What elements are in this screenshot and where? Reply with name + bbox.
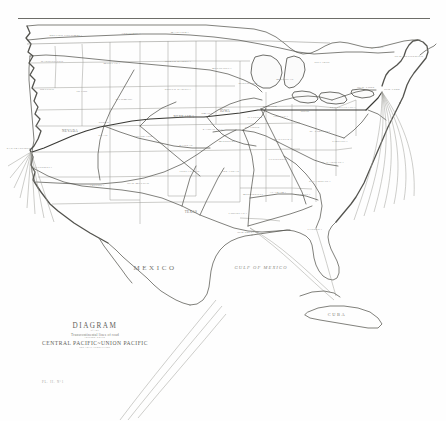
region-label: IOWA <box>220 109 230 113</box>
region-label: ALABAMA <box>269 190 287 194</box>
region-label: ARKANSAS <box>221 169 239 173</box>
region-label: VIRGINIA <box>332 139 349 143</box>
region-label: MICHIGAN <box>276 77 294 81</box>
title-block: DIAGRAM of the Transcontinental lines of… <box>36 322 154 350</box>
region-label: TENNESSEE <box>268 157 287 161</box>
city-label: CHICAGO <box>263 105 277 108</box>
region-label: UTAH <box>98 133 107 137</box>
label-cuba: CUBA <box>328 312 347 317</box>
city-label: SAN FRANCISCO <box>7 147 31 150</box>
region-label: KANSAS <box>179 143 193 147</box>
region-label: NEVADA <box>62 129 78 133</box>
region-label: WISCONSIN <box>238 81 258 85</box>
region-label: WYOMING <box>115 97 132 101</box>
region-label: COLORADO <box>134 134 153 138</box>
region-label: LOUISIANA <box>229 211 248 215</box>
city-label: OMAHA <box>201 112 212 115</box>
city-label: NEW ORLEANS <box>237 231 259 234</box>
label-gulf-of-mexico: GULF OF MEXICO <box>234 265 287 270</box>
city-label: ST. LOUIS <box>245 126 260 129</box>
region-label: MINNESOTA <box>212 66 233 70</box>
region-label: TEXAS <box>185 210 198 214</box>
title-footnote: and their connections <box>36 347 154 350</box>
region-label: MISSOURI <box>219 139 236 143</box>
region-label: KENTUCKY <box>274 137 293 141</box>
region-label: ONTARIO <box>314 60 329 64</box>
map-plate: MEXICO GULF OF MEXICO CUBA BRITISH COLUM… <box>0 0 446 421</box>
region-label: NEW YORK <box>357 85 376 89</box>
region-label: NEBRASKA <box>173 115 194 119</box>
region-label: OREGON <box>40 87 55 91</box>
region-label: MANITOBA <box>171 30 190 34</box>
region-label: OHIO <box>301 109 310 113</box>
region-label: PENNSYLVANIA <box>330 105 356 109</box>
region-label: NEW BRUNSWICK <box>394 54 424 58</box>
region-label: BRITISH COLUMBIA <box>50 33 84 37</box>
region-label: INDIANA <box>274 114 289 118</box>
region-label: WASHINGTON <box>41 59 64 63</box>
region-label: N. CAROLINA <box>322 160 345 164</box>
region-label: S. CAROLINA <box>309 179 331 183</box>
steamship-routes <box>8 92 414 420</box>
city-label: NEW YORK <box>384 88 400 91</box>
region-label: IDAHO <box>76 89 87 93</box>
region-label: QUEBEC <box>370 45 384 49</box>
region-label: CALIFORNIA <box>31 165 53 169</box>
region-label: MISSISSIPPI <box>243 192 263 196</box>
cuba-island <box>300 291 382 328</box>
region-label: FLORIDA <box>308 227 324 231</box>
city-label: OGDEN <box>99 121 110 124</box>
region-label: SOUTH DAKOTA <box>165 87 192 91</box>
region-label: GEORGIA <box>295 192 311 196</box>
region-label: W. VIRGINIA <box>310 129 331 133</box>
plate-mark: PL. II. N°1 <box>42 380 64 384</box>
region-label: NEW MEXICO <box>127 181 149 185</box>
region-label: NORTH DAKOTA <box>165 59 192 63</box>
map-labels: MEXICO GULF OF MEXICO CUBA BRITISH COLUM… <box>7 30 424 317</box>
map-canvas: MEXICO GULF OF MEXICO CUBA BRITISH COLUM… <box>0 0 446 421</box>
label-mexico: MEXICO <box>133 264 176 272</box>
region-label: MONTANA <box>104 61 122 65</box>
city-label: KANSAS CITY <box>203 128 223 131</box>
region-label: ASSINIBOIA <box>121 31 141 35</box>
region-label: ILLINOIS <box>247 115 262 119</box>
region-label: INDIAN TER. <box>180 169 201 173</box>
region-label: ARIZONA <box>89 183 105 187</box>
